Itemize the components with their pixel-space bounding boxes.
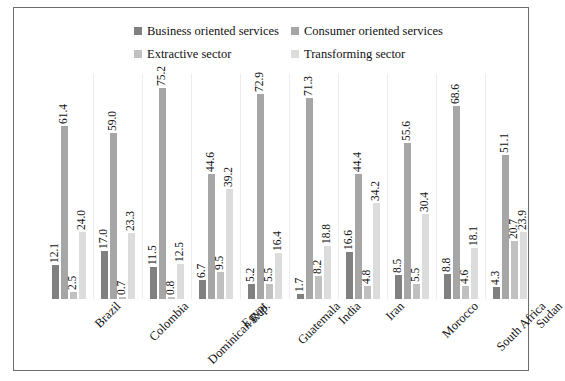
bar-value-label: 61.4 — [58, 104, 69, 124]
bar[interactable] — [208, 174, 215, 299]
bar-group: 5.272.95.516.4 — [240, 74, 289, 299]
bar-group: 8.868.64.618.1 — [436, 74, 485, 299]
bar[interactable] — [471, 248, 478, 299]
legend-swatch-icon — [134, 27, 142, 35]
bar-value-label: 44.4 — [352, 152, 363, 172]
bar[interactable] — [422, 214, 429, 300]
bar-group-bars: 17.059.00.723.3 — [93, 74, 142, 299]
bar-column: 59.0 — [110, 133, 117, 299]
bar-value-label: 0.7 — [116, 281, 127, 295]
bar-value-label: 17.0 — [98, 229, 109, 249]
x-axis-tick-label: Brazil — [91, 299, 122, 330]
bar[interactable] — [150, 267, 157, 299]
bar[interactable] — [413, 284, 420, 299]
bar[interactable] — [177, 264, 184, 299]
bar[interactable] — [315, 276, 322, 299]
bar[interactable] — [444, 274, 451, 299]
bar-value-label: 5.5 — [263, 267, 274, 281]
legend-item-extractive-sector: Extractive sector — [134, 47, 291, 61]
bar-value-label: 0.8 — [165, 280, 176, 294]
bar[interactable] — [52, 265, 59, 299]
bar[interactable] — [101, 251, 108, 299]
legend-label: Business oriented services — [147, 24, 279, 38]
bar[interactable] — [128, 233, 135, 299]
bar-group-bars: 11.575.20.812.5 — [142, 74, 191, 299]
bar-group: 17.059.00.723.3 — [93, 74, 142, 299]
bar-value-label: 16.6 — [343, 230, 354, 250]
bar[interactable] — [462, 286, 469, 299]
bar-group-bars: 4.351.120.723.9 — [485, 74, 534, 299]
x-axis-tick-label: Guatemala — [294, 299, 342, 347]
bar-value-label: 6.7 — [196, 264, 207, 278]
bar-value-label: 4.3 — [490, 271, 501, 285]
legend-swatch-icon — [291, 50, 299, 58]
legend-label: Transforming sector — [304, 47, 405, 61]
legend-swatch-icon — [134, 50, 142, 58]
bar-value-label: 24.0 — [76, 209, 87, 229]
bar-column: 18.1 — [471, 248, 478, 299]
bar[interactable] — [248, 284, 255, 299]
bar-value-label: 51.1 — [499, 133, 510, 153]
bar[interactable] — [61, 126, 68, 299]
bar-value-label: 12.1 — [49, 243, 60, 263]
bar-value-label: 8.8 — [441, 258, 452, 272]
bar-column: 30.4 — [422, 214, 429, 300]
bar[interactable] — [493, 287, 500, 299]
bar[interactable] — [159, 88, 166, 300]
chart-legend: Business oriented services Consumer orie… — [134, 24, 464, 70]
bar[interactable] — [226, 189, 233, 299]
bar-group-bars: 8.555.65.530.4 — [387, 74, 436, 299]
bar[interactable] — [364, 286, 371, 300]
bar-column: 5.5 — [266, 284, 273, 299]
bar-column: 12.1 — [52, 265, 59, 299]
bar[interactable] — [275, 253, 282, 299]
bar[interactable] — [511, 241, 518, 299]
bar-value-label: 23.3 — [125, 211, 136, 231]
bar[interactable] — [199, 280, 206, 299]
bar[interactable] — [79, 232, 86, 300]
legend-row: Business oriented services Consumer orie… — [134, 24, 464, 47]
legend-item-business-oriented-services: Business oriented services — [134, 24, 291, 38]
bar[interactable] — [217, 272, 224, 299]
bar-value-label: 55.6 — [401, 121, 412, 141]
bar-value-label: 4.8 — [361, 269, 372, 283]
bar[interactable] — [266, 284, 273, 299]
bar-column: 11.5 — [150, 267, 157, 299]
bar-column: 8.8 — [444, 274, 451, 299]
legend-item-transforming-sector: Transforming sector — [291, 47, 405, 61]
bar-column: 75.2 — [159, 88, 166, 300]
bar-value-label: 2.5 — [67, 276, 78, 290]
bar-value-label: 72.9 — [254, 72, 265, 92]
bar-value-label: 12.5 — [174, 242, 185, 262]
bar-value-label: 30.4 — [419, 191, 430, 211]
bar-value-label: 5.2 — [245, 268, 256, 282]
bar-value-label: 59.0 — [107, 111, 118, 131]
bar[interactable] — [346, 252, 353, 299]
bar[interactable] — [70, 292, 77, 299]
bar-group: 11.575.20.812.5 — [142, 74, 191, 299]
bar-column: 17.0 — [101, 251, 108, 299]
x-axis-tick-label: Colombia — [146, 299, 191, 344]
bar[interactable] — [395, 275, 402, 299]
bar-column: 5.2 — [248, 284, 255, 299]
bar-value-label: 5.5 — [410, 267, 421, 281]
bar-group: 16.644.44.834.2 — [338, 74, 387, 299]
bar-column: 18.8 — [324, 246, 331, 299]
bar-value-label: 8.5 — [392, 259, 403, 273]
bar-value-label: 1.7 — [294, 278, 305, 292]
legend-swatch-icon — [291, 27, 299, 35]
bar[interactable] — [324, 246, 331, 299]
bar[interactable] — [110, 133, 117, 299]
bar[interactable] — [373, 203, 380, 299]
x-axis-tick-label: Morocco — [439, 299, 481, 341]
bar-column: 34.2 — [373, 203, 380, 299]
bar-column: 12.5 — [177, 264, 184, 299]
bar[interactable] — [520, 232, 527, 299]
bar-column: 8.5 — [395, 275, 402, 299]
bar-value-label: 44.6 — [205, 151, 216, 171]
bar-value-label: 23.9 — [517, 210, 528, 230]
bar-group: 12.161.42.524.0 — [44, 74, 93, 299]
bar-value-label: 18.1 — [468, 226, 479, 246]
bar-column: 39.2 — [226, 189, 233, 299]
bar-value-label: 11.5 — [147, 245, 158, 265]
